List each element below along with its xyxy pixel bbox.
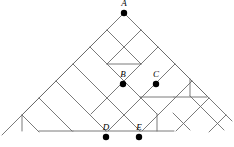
lattice-segment-d2-c bbox=[108, 64, 175, 131]
vertex-layer bbox=[103, 10, 159, 140]
segment-layer bbox=[2, 13, 232, 135]
lattice-segment-d1-j bbox=[190, 96, 207, 113]
lattice-segment-d1-l bbox=[207, 113, 224, 130]
lattice-svg bbox=[0, 0, 234, 147]
lattice-diagram: ABCDE bbox=[0, 0, 234, 147]
vertex-point-b[interactable] bbox=[120, 81, 126, 87]
lattice-segment-d1-c bbox=[73, 64, 140, 131]
lattice-segment-d1-f bbox=[22, 115, 39, 132]
vertex-point-c[interactable] bbox=[153, 81, 159, 87]
vertex-point-e[interactable] bbox=[136, 134, 142, 140]
lattice-segment-d1-k bbox=[173, 113, 190, 130]
lattice-segment-d2-k bbox=[22, 98, 39, 115]
lattice-segment-d2-e bbox=[176, 98, 209, 131]
lattice-segment-d2-b bbox=[91, 47, 158, 114]
lattice-segment-d1-i bbox=[174, 63, 207, 96]
lattice-segment-d1-e bbox=[39, 98, 72, 131]
vertex-point-d[interactable] bbox=[103, 134, 109, 140]
lattice-segment-d1-b bbox=[90, 47, 157, 114]
vertex-point-a[interactable] bbox=[121, 10, 127, 16]
